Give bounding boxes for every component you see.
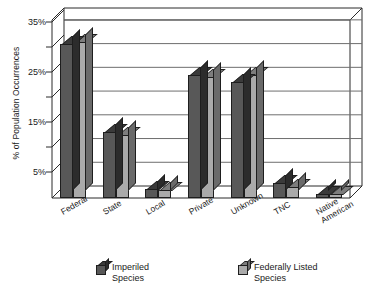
bar-imperiled xyxy=(145,189,158,198)
caption-partial xyxy=(0,293,377,301)
chart-bars xyxy=(52,20,350,198)
bar-imperiled xyxy=(231,82,244,198)
legend-item-federally-listed: Federally Listed Species xyxy=(238,262,318,292)
bar-group xyxy=(137,20,180,198)
legend-swatch-icon xyxy=(96,265,106,275)
bar-imperiled xyxy=(273,183,286,198)
bar-group xyxy=(222,20,265,198)
bar-group xyxy=(95,20,138,198)
bar-federally-listed xyxy=(286,187,299,198)
legend-label: Federally Listed Species xyxy=(254,262,318,283)
x-axis-labels: FederalStateLocalPrivateUnknownTNCNative… xyxy=(52,200,350,260)
legend-swatch-icon xyxy=(238,265,248,275)
x-tick-label: State xyxy=(101,198,123,217)
legend-item-imperiled: Imperiled Species xyxy=(96,262,238,292)
bar-imperiled xyxy=(188,75,201,198)
chart-legend: Imperiled Species Federally Listed Speci… xyxy=(96,262,356,292)
bar-group xyxy=(307,20,350,198)
x-tick-label: Private xyxy=(187,195,215,217)
y-tick-label: 5% xyxy=(33,167,46,177)
bar-imperiled xyxy=(60,44,73,198)
bar-imperiled xyxy=(316,194,329,198)
bar-federally-listed xyxy=(329,194,342,198)
bar-group xyxy=(52,20,95,198)
x-tick-label: TNC xyxy=(272,199,292,216)
bar-imperiled xyxy=(103,132,116,198)
y-tick-label: 15% xyxy=(28,117,46,127)
legend-label: Imperiled Species xyxy=(112,262,149,283)
bar-group xyxy=(180,20,223,198)
y-tick-label: 35% xyxy=(28,17,46,27)
y-tick-label: 25% xyxy=(28,67,46,77)
y-axis-labels: 5% 15% 25% 35% xyxy=(16,0,50,301)
bar-chart: % of Population Occurrences 5% 15% 25% 3… xyxy=(0,0,377,301)
bar-group xyxy=(265,20,308,198)
x-tick-label: Local xyxy=(144,198,167,217)
bar-federally-listed xyxy=(158,190,171,198)
